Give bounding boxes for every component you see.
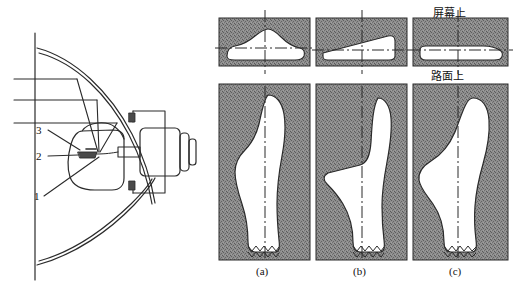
road-pattern-b xyxy=(316,84,407,260)
leader-line-3 xyxy=(48,130,80,150)
figure-stage: 3 2 1 xyxy=(0,0,517,296)
row-label-screen: 屏幕上 xyxy=(433,4,466,20)
bottom-cropped-text xyxy=(150,285,450,296)
leader-line-2 xyxy=(48,155,78,156)
row-label-road: 路面上 xyxy=(431,67,464,83)
case-label-a: (a) xyxy=(256,265,268,277)
bracket-screw-lower xyxy=(129,181,135,190)
reflector-inner-lower xyxy=(39,179,152,261)
case-label-b: (b) xyxy=(353,265,366,277)
screen-pattern-a xyxy=(215,10,314,74)
bulb-envelope xyxy=(68,130,124,190)
ray-reflected-1 xyxy=(77,79,98,152)
ray-reflected-2 xyxy=(97,100,99,152)
reflector-outer-lower xyxy=(37,178,155,265)
callout-label-1: 1 xyxy=(34,190,40,202)
beam-pattern-grid: 屏幕上 路面上 (a) (b) (c) xyxy=(215,0,517,296)
reflector-outer-upper xyxy=(37,48,155,203)
filament-shield xyxy=(78,152,97,158)
socket-terminal xyxy=(189,139,196,165)
case-label-c: (c) xyxy=(449,265,461,277)
socket-collar xyxy=(180,133,189,171)
callout-label-3: 3 xyxy=(36,124,42,136)
mounting-bracket xyxy=(133,111,165,193)
bracket-screw-upper xyxy=(129,113,135,122)
headlamp-diagram: 3 2 1 xyxy=(0,0,215,296)
road-pattern-a xyxy=(219,84,310,260)
screen-pattern-b xyxy=(312,10,411,74)
road-pattern-c xyxy=(413,84,508,260)
callout-label-2: 2 xyxy=(36,150,42,162)
ray-reflected-3 xyxy=(100,123,117,152)
